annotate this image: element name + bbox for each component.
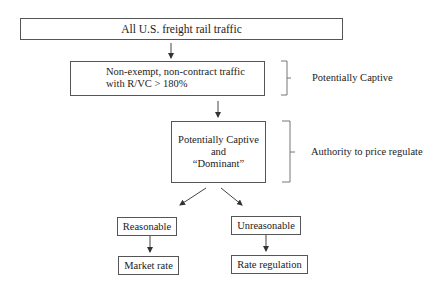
node-non-exempt-line1: Non-exempt, non-contract traffic — [106, 66, 264, 78]
bracket-authority — [282, 121, 295, 182]
node-dominant: Potentially Captive and “Dominant” — [171, 121, 266, 183]
bracket-potentially-captive — [281, 61, 291, 95]
node-non-exempt-line2: with R/VC > 180% — [106, 78, 264, 90]
node-dominant-line3: “Dominant” — [193, 158, 244, 170]
node-rate-regulation: Rate regulation — [231, 255, 308, 274]
node-reasonable: Reasonable — [117, 217, 177, 236]
node-market-rate: Market rate — [118, 256, 179, 275]
node-all-traffic: All U.S. freight rail traffic — [20, 18, 343, 40]
node-rate-regulation-label: Rate regulation — [237, 259, 301, 271]
node-non-exempt: Non-exempt, non-contract traffic with R/… — [70, 61, 265, 96]
node-unreasonable: Unreasonable — [231, 216, 301, 235]
annotation-authority: Authority to price regulate — [311, 146, 423, 157]
arrow-dominant-to-unreasonable — [221, 188, 242, 205]
annotation-potentially-captive: Potentially Captive — [312, 72, 393, 83]
node-dominant-line2: and — [211, 146, 226, 158]
node-all-traffic-label: All U.S. freight rail traffic — [121, 23, 242, 35]
arrow-dominant-to-reasonable — [180, 188, 206, 205]
node-dominant-line1: Potentially Captive — [178, 134, 259, 146]
node-market-rate-label: Market rate — [124, 260, 173, 272]
node-unreasonable-label: Unreasonable — [237, 220, 295, 232]
node-reasonable-label: Reasonable — [123, 221, 171, 233]
